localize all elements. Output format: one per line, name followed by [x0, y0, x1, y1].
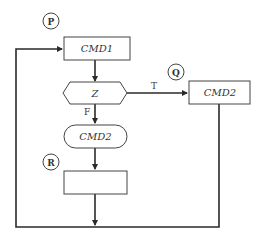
flowchart-canvas: T F P CMD1 Z Q CMD2 CMD2	[0, 0, 264, 236]
node-empty	[64, 171, 127, 194]
connector-q-label: Q	[172, 68, 180, 78]
connector-q: Q	[168, 64, 184, 80]
true-label: T	[151, 81, 157, 91]
node-cmd2-true: CMD2	[189, 81, 250, 104]
node-decision-label: Z	[91, 88, 100, 99]
connector-p: P	[43, 13, 59, 29]
node-cmd2-false: CMD2	[64, 125, 127, 148]
node-cmd1: CMD1	[64, 37, 130, 60]
connector-r-label: R	[47, 158, 55, 168]
node-cmd2-false-label: CMD2	[79, 131, 111, 142]
node-cmd1-label: CMD1	[81, 43, 113, 54]
connector-r: R	[43, 154, 59, 170]
false-label: F	[84, 107, 90, 117]
node-cmd2-true-label: CMD2	[204, 87, 236, 98]
connector-p-label: P	[48, 17, 55, 27]
node-decision: Z	[63, 82, 127, 104]
